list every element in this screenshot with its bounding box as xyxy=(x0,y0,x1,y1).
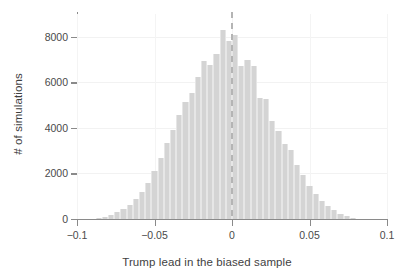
plot-area xyxy=(77,14,387,219)
y-axis-label: # of simulations xyxy=(12,59,24,169)
x-tick-label: 0.05 xyxy=(280,229,340,241)
x-tick-mark xyxy=(310,220,311,226)
gridline-vertical xyxy=(77,14,78,219)
y-tick-label: 4000 xyxy=(24,122,68,134)
x-tick-mark xyxy=(155,220,156,226)
y-tick-label: 8000 xyxy=(24,31,68,43)
y-tick-label: 0 xyxy=(24,213,68,225)
x-tick-label: −0.1 xyxy=(47,229,107,241)
x-tick-label: 0.1 xyxy=(357,229,414,241)
histogram-figure: # of simulations 02000400060008000 −0.1−… xyxy=(0,0,414,280)
histogram-bar xyxy=(350,218,356,219)
x-tick-mark xyxy=(77,220,78,226)
gridline-vertical xyxy=(387,14,388,219)
y-tick-label: 6000 xyxy=(24,76,68,88)
x-tick-mark xyxy=(387,220,388,226)
y-tick-label: 2000 xyxy=(24,167,68,179)
x-tick-label: 0 xyxy=(202,229,262,241)
x-axis-label: Trump lead in the biased sample xyxy=(0,256,414,268)
x-tick-label: −0.05 xyxy=(125,229,185,241)
zero-reference-line xyxy=(231,12,234,219)
x-tick-mark xyxy=(232,220,233,226)
